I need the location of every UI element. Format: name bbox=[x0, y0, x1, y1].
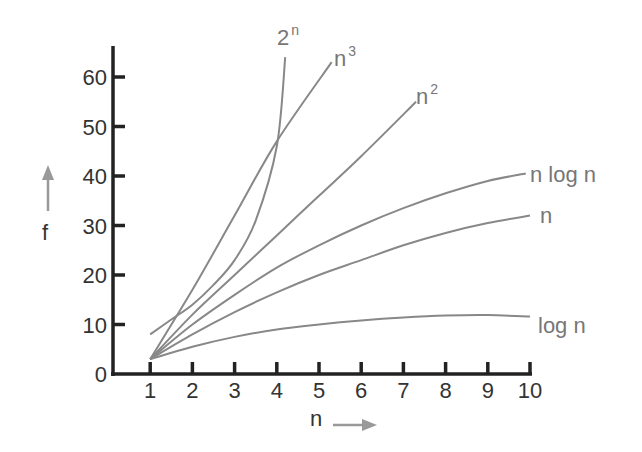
curve-label: log n bbox=[538, 313, 586, 338]
axes bbox=[111, 46, 532, 376]
x-tick-label: 1 bbox=[144, 378, 156, 403]
curves bbox=[150, 57, 530, 359]
y-ticks: 0102030405060 bbox=[83, 65, 125, 387]
right-arrow-icon bbox=[333, 419, 377, 431]
x-axis-title: n bbox=[310, 406, 322, 431]
x-tick-label: 3 bbox=[228, 378, 240, 403]
x-tick-label: 5 bbox=[313, 378, 325, 403]
x-tick-label: 4 bbox=[271, 378, 283, 403]
complexity-chart: 0102030405060 12345678910 2nn3n2n log nn… bbox=[0, 0, 642, 452]
x-tick-label: 2 bbox=[186, 378, 198, 403]
curve-2-n bbox=[150, 57, 285, 334]
y-tick-label: 60 bbox=[83, 65, 107, 90]
curve-label: n bbox=[540, 203, 552, 228]
y-axis-title: f bbox=[42, 220, 49, 245]
curve-label: 2n bbox=[277, 22, 299, 50]
up-arrow-icon bbox=[42, 165, 54, 211]
y-tick-label: 40 bbox=[83, 164, 107, 189]
x-tick-label: 10 bbox=[518, 378, 542, 403]
curve-labels: 2nn3n2n log nnlog n bbox=[277, 22, 596, 338]
y-tick-label: 0 bbox=[95, 362, 107, 387]
curve-label: n3 bbox=[334, 43, 356, 71]
curve-label: n log n bbox=[530, 162, 596, 187]
y-tick-label: 30 bbox=[83, 214, 107, 239]
y-tick-label: 50 bbox=[83, 115, 107, 140]
x-tick-label: 9 bbox=[482, 378, 494, 403]
y-tick-label: 10 bbox=[83, 313, 107, 338]
y-tick-label: 20 bbox=[83, 263, 107, 288]
curve-label: n2 bbox=[416, 81, 438, 109]
curve-n bbox=[150, 216, 530, 360]
x-ticks: 12345678910 bbox=[144, 362, 542, 403]
x-tick-label: 8 bbox=[439, 378, 451, 403]
curve-log-n bbox=[150, 315, 530, 359]
x-tick-label: 7 bbox=[397, 378, 409, 403]
x-tick-label: 6 bbox=[355, 378, 367, 403]
curve-n-2 bbox=[150, 102, 416, 359]
